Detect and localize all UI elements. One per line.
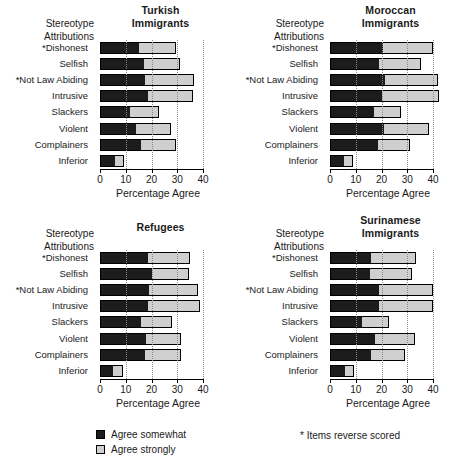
- x-tick-label: 0: [89, 384, 111, 395]
- category-label: Complainers: [0, 139, 88, 151]
- category-label: Complainers: [0, 349, 88, 361]
- stacked-bar: [100, 42, 176, 54]
- x-tick-label: 0: [319, 174, 341, 185]
- plot-area: [100, 250, 203, 379]
- bar-segment-agree-strongly: [139, 42, 176, 54]
- stacked-bar: [330, 252, 416, 264]
- bar-segment-agree-strongly: [344, 155, 353, 167]
- bar-segment-agree-somewhat: [100, 74, 145, 86]
- panel-title: Moroccan Immigrants: [328, 4, 453, 30]
- gridline-20: [382, 250, 383, 379]
- bar-segment-agree-somewhat: [330, 349, 371, 361]
- gridline-10: [126, 40, 127, 169]
- bar-segment-agree-strongly: [379, 58, 421, 70]
- x-tick-label: 30: [396, 384, 418, 395]
- category-label: Selfish: [223, 58, 318, 70]
- bar-segment-agree-somewhat: [100, 333, 146, 345]
- gridline-40: [433, 40, 434, 169]
- legend-label-agree-somewhat: Agree somewhat: [111, 428, 186, 441]
- legend-item-agree-somewhat: Agree somewhat: [96, 428, 186, 441]
- panel-title-line2: Immigrants: [98, 17, 223, 30]
- category-label: Intrusive: [223, 300, 318, 312]
- footnote-reverse-scored: * Items reverse scored: [300, 430, 400, 441]
- bar-segment-agree-strongly: [148, 300, 201, 312]
- stacked-bar: [330, 268, 412, 280]
- bar-segment-agree-strongly: [148, 90, 193, 102]
- stacked-bar: [100, 74, 194, 86]
- stacked-bar: [330, 90, 439, 102]
- stereotype-attributions-figure: Turkish Immigrants Stereotype Attributio…: [0, 0, 460, 465]
- category-label: Slackers: [223, 316, 318, 328]
- category-label: Selfish: [0, 268, 88, 280]
- x-tick-label: 20: [141, 384, 163, 395]
- x-tick: [126, 169, 127, 173]
- gridline-20: [152, 40, 153, 169]
- x-tick: [100, 169, 101, 173]
- gridline-10: [126, 250, 127, 379]
- legend: Agree somewhat Agree strongly: [96, 428, 186, 458]
- category-label: Violent: [223, 333, 318, 345]
- bar-segment-agree-strongly: [145, 349, 181, 361]
- bar-segment-agree-somewhat: [330, 139, 378, 151]
- category-label: *Not Law Abiding: [0, 284, 88, 296]
- plot-area: [330, 40, 433, 169]
- category-label: *Dishonest: [223, 252, 318, 264]
- gridline-20: [152, 250, 153, 379]
- bar-segment-agree-somewhat: [100, 252, 148, 264]
- category-label: *Dishonest: [0, 42, 88, 54]
- bar-segment-agree-strongly: [130, 106, 160, 118]
- panel-title: Refugees: [98, 221, 223, 234]
- x-axis-title: Percentage Agree: [328, 397, 448, 409]
- category-labels: *DishonestSelfish*Not Law AbidingIntrusi…: [0, 250, 95, 379]
- gridline-10: [356, 250, 357, 379]
- x-tick: [433, 169, 434, 173]
- y-axis-header-line1: Stereotype: [8, 18, 94, 31]
- bar-segment-agree-somewhat: [330, 252, 371, 264]
- stacked-bar: [330, 74, 438, 86]
- bar-segment-agree-somewhat: [330, 155, 344, 167]
- bar-segment-agree-somewhat: [330, 58, 379, 70]
- category-label: *Not Law Abiding: [223, 284, 318, 296]
- bar-segment-agree-strongly: [149, 284, 198, 296]
- y-axis-header-line1: Stereotype: [238, 228, 324, 241]
- gridline-40: [203, 40, 204, 169]
- x-tick-label: 10: [345, 174, 367, 185]
- category-label: Violent: [0, 123, 88, 135]
- gridline-40: [433, 250, 434, 379]
- x-tick-label: 20: [141, 174, 163, 185]
- bar-segment-agree-somewhat: [100, 316, 141, 328]
- x-tick-label: 40: [192, 174, 214, 185]
- stacked-bar: [100, 284, 198, 296]
- category-label: Intrusive: [223, 90, 318, 102]
- bar-segment-agree-somewhat: [330, 106, 374, 118]
- stacked-bar: [100, 349, 181, 361]
- x-tick: [356, 379, 357, 383]
- stacked-bar: [100, 58, 180, 70]
- bar-segment-agree-somewhat: [330, 333, 375, 345]
- x-tick-label: 40: [422, 174, 444, 185]
- x-tick: [382, 169, 383, 173]
- x-axis-title: Percentage Agree: [98, 397, 218, 409]
- bar-segment-agree-somewhat: [330, 300, 379, 312]
- y-axis-header-line1: Stereotype: [238, 18, 324, 31]
- bar-segment-agree-somewhat: [100, 139, 141, 151]
- category-label: Violent: [223, 123, 318, 135]
- stacked-bar: [100, 268, 189, 280]
- panel-title-line1: Turkish: [98, 4, 223, 17]
- bar-segment-agree-somewhat: [330, 365, 345, 377]
- x-tick: [126, 379, 127, 383]
- bar-segment-agree-strongly: [152, 268, 189, 280]
- bar-segment-agree-strongly: [362, 316, 389, 328]
- category-label: *Not Law Abiding: [223, 74, 318, 86]
- x-tick-label: 0: [319, 384, 341, 395]
- bar-segment-agree-somewhat: [100, 349, 145, 361]
- category-label: *Dishonest: [0, 252, 88, 264]
- category-label: Complainers: [223, 349, 318, 361]
- bar-segment-agree-strongly: [370, 268, 412, 280]
- stacked-bar: [330, 123, 429, 135]
- category-label: Slackers: [0, 316, 88, 328]
- x-tick-label: 40: [422, 384, 444, 395]
- x-tick-label: 30: [166, 174, 188, 185]
- stacked-bar: [330, 106, 401, 118]
- bar-segment-agree-strongly: [144, 58, 180, 70]
